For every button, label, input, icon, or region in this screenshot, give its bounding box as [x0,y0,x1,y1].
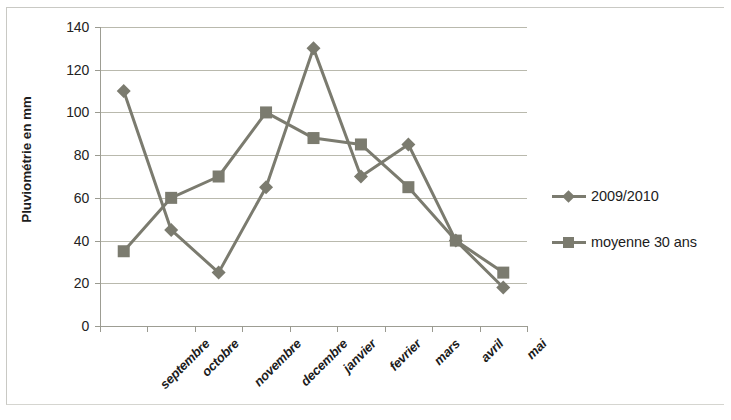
legend-item-moyenne-30-ans: moyenne 30 ans [552,228,724,256]
legend-label-moyenne-30-ans: moyenne 30 ans [591,234,697,250]
series-line-1 [124,48,504,287]
data-point-square [213,171,225,183]
legend-label-2009-2010: 2009/2010 [591,188,659,204]
data-point-square [308,132,320,144]
diamond-marker-icon [552,187,586,205]
data-point-square [118,245,130,257]
data-point-diamond [307,41,321,55]
data-point-square [402,181,414,193]
data-point-square [497,267,509,279]
data-point-square [450,235,462,247]
chart-screenshot: Pluviométrie en mm 020406080100120140 se… [0,0,731,420]
data-point-diamond [117,84,131,98]
data-point-diamond [259,180,273,194]
chart-legend: 2009/2010 moyenne 30 ans [552,182,724,274]
data-point-square [260,106,272,118]
data-point-square [165,192,177,204]
legend-item-2009-2010: 2009/2010 [552,182,724,210]
data-point-square [355,138,367,150]
line-chart: Pluviométrie en mm 020406080100120140 se… [0,0,731,420]
square-marker-icon [552,233,586,251]
